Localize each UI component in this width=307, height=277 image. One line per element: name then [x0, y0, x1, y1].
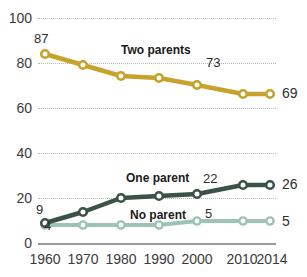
value-label-two-parents-2000: 73: [206, 56, 220, 69]
value-label-one-parent-2000: 22: [203, 172, 217, 185]
value-label-no-parent-1960: 4: [44, 219, 51, 232]
two-parents-markers: [41, 50, 274, 98]
value-label-two-parents-2014: 69: [282, 87, 298, 100]
line-chart: 100 80 60 40 20 0: [0, 0, 307, 277]
value-label-no-parent-2000: 5: [205, 207, 212, 220]
series-label-one-parent: One parent: [126, 172, 189, 184]
value-label-one-parent-1960: 9: [36, 203, 43, 216]
value-label-no-parent-2014: 5: [282, 215, 290, 228]
value-label-one-parent-2014: 26: [282, 178, 298, 191]
x-tick-2014: 2014: [244, 252, 300, 266]
plot-area: 100 80 60 40 20 0: [0, 0, 307, 277]
value-label-two-parents-1960: 87: [34, 32, 48, 45]
series-label-two-parents: Two parents: [121, 44, 191, 56]
series-label-no-parent: No parent: [130, 209, 186, 221]
